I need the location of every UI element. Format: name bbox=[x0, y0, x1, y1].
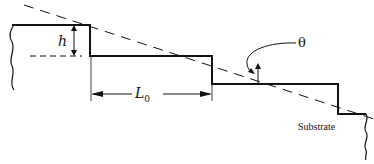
terrace-length-label: L0 bbox=[135, 86, 150, 104]
substrate-label: Substrate bbox=[298, 122, 335, 132]
l0-arrow-left-icon bbox=[91, 91, 103, 97]
left-break-line bbox=[10, 25, 14, 90]
miscut-angle-label: θ bbox=[298, 36, 306, 49]
l0-arrow-right-icon bbox=[200, 91, 212, 97]
right-break-line bbox=[365, 114, 367, 160]
average-surface-dashed-line bbox=[24, 5, 374, 119]
theta-leader-curve bbox=[247, 43, 296, 73]
diagram-canvas: h L0 θ Substrate bbox=[0, 0, 374, 164]
theta-arrow-up-icon bbox=[255, 63, 261, 69]
terrace-length-sub: 0 bbox=[144, 94, 150, 104]
terrace-length-main: L bbox=[135, 85, 144, 101]
h-arrow-down-icon bbox=[71, 50, 77, 56]
step-height-label: h bbox=[58, 34, 67, 48]
step-profile-drawing bbox=[0, 0, 374, 164]
